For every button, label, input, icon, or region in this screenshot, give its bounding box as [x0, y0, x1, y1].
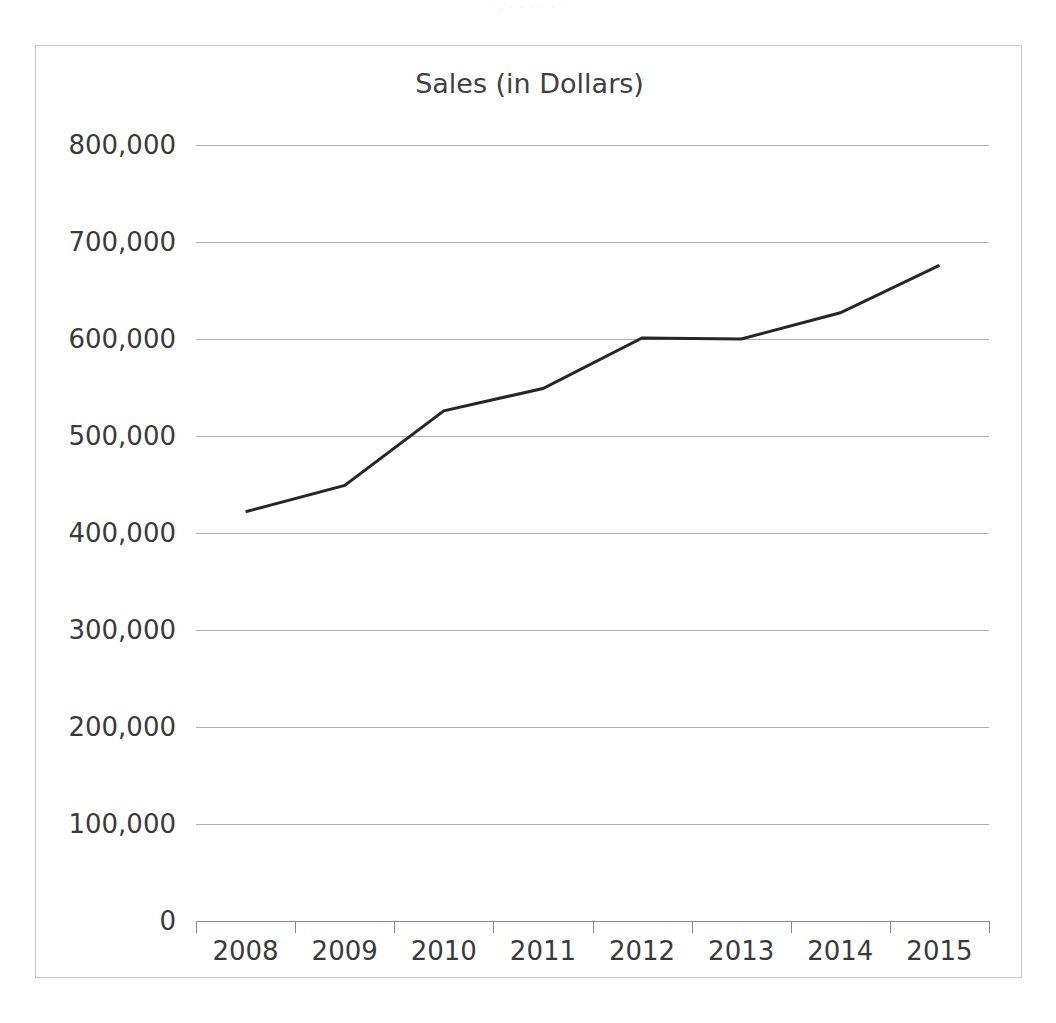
x-axis-tick: [493, 921, 494, 933]
x-axis-tick: [989, 921, 990, 933]
scan-artifact: · , · · · · · ·: [0, 0, 1056, 14]
y-axis-tick-label: 0: [159, 906, 176, 936]
series-polyline: [246, 265, 940, 511]
x-axis-tick: [791, 921, 792, 933]
y-axis-tick-label: 600,000: [68, 324, 176, 354]
y-axis-tick-label: 100,000: [68, 809, 176, 839]
x-axis-tick-label: 2012: [593, 936, 692, 966]
x-axis-tick: [295, 921, 296, 933]
sales-line-series: [196, 145, 989, 921]
y-axis-tick-label: 300,000: [68, 615, 176, 645]
x-axis-tick: [196, 921, 197, 933]
y-axis-labels: 0100,000200,000300,000400,000500,000600,…: [36, 145, 188, 921]
y-axis-tick-label: 800,000: [68, 130, 176, 160]
x-axis-tick-label: 2013: [692, 936, 791, 966]
x-axis-tick: [692, 921, 693, 933]
chart-title: Sales (in Dollars): [36, 68, 1023, 99]
x-axis-tick-label: 2011: [493, 936, 592, 966]
y-axis-tick-label: 500,000: [68, 421, 176, 451]
x-axis-labels: 20082009201020112012201320142015: [196, 936, 989, 982]
x-axis-tick-label: 2010: [394, 936, 493, 966]
chart-frame: Sales (in Dollars) 0100,000200,000300,00…: [35, 45, 1022, 978]
x-axis-tick: [394, 921, 395, 933]
plot-area: [196, 145, 989, 921]
x-axis-tick-label: 2015: [890, 936, 989, 966]
y-axis-tick-label: 700,000: [68, 227, 176, 257]
x-axis-tick: [890, 921, 891, 933]
x-axis-tick-label: 2008: [196, 936, 295, 966]
x-axis-tick: [593, 921, 594, 933]
x-axis-tick-label: 2014: [791, 936, 890, 966]
y-axis-tick-label: 200,000: [68, 712, 176, 742]
x-axis-tick-label: 2009: [295, 936, 394, 966]
y-axis-tick-label: 400,000: [68, 518, 176, 548]
